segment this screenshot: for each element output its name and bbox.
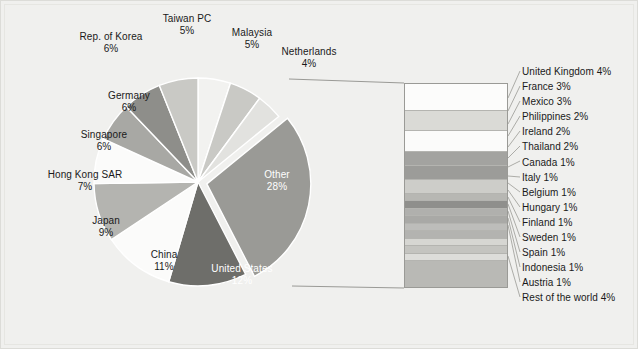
pie-label-name: China bbox=[151, 249, 178, 260]
pie-label-other: Other 28% bbox=[247, 169, 307, 192]
bar-segment-hungary[interactable] bbox=[405, 216, 507, 223]
leader-line-spain bbox=[508, 211, 520, 252]
leader-line-rest-of-the-world bbox=[508, 256, 520, 297]
bar-segment-spain[interactable] bbox=[405, 239, 507, 246]
pie-label-pct: 6% bbox=[89, 102, 169, 114]
breakout-stacked-bar bbox=[404, 83, 508, 288]
pie-label-japan: Japan 9% bbox=[69, 215, 143, 238]
pie-label-rep-of-korea: Rep. of Korea 6% bbox=[61, 31, 161, 54]
bar-segment-belgium[interactable] bbox=[405, 209, 507, 216]
leader-line-hungary bbox=[508, 190, 520, 207]
legend-item-belgium[interactable]: Belgium 1% bbox=[522, 185, 637, 200]
pie-label-pct: 11% bbox=[129, 261, 199, 273]
pie-label-pct: 28% bbox=[247, 181, 307, 193]
bar-segment-philippines[interactable] bbox=[405, 152, 507, 166]
legend-item-hungary[interactable]: Hungary 1% bbox=[522, 200, 637, 215]
pie-label-name: Rep. of Korea bbox=[79, 31, 142, 42]
legend-item-canada[interactable]: Canada 1% bbox=[522, 155, 637, 170]
bar-segment-sweden[interactable] bbox=[405, 231, 507, 238]
leader-line-austria bbox=[508, 225, 520, 282]
legend-item-thailand[interactable]: Thailand 2% bbox=[522, 139, 637, 154]
pie-label-name: Germany bbox=[108, 90, 150, 101]
pie-label-pct: 9% bbox=[69, 227, 143, 239]
legend-item-austria[interactable]: Austria 1% bbox=[522, 275, 637, 290]
legend-item-ireland[interactable]: Ireland 2% bbox=[522, 124, 637, 139]
legend-item-united-kingdom[interactable]: United Kingdom 4% bbox=[522, 64, 637, 79]
leader-line-canada bbox=[508, 161, 520, 167]
pie-label-name: Japan bbox=[92, 215, 120, 226]
leader-line-philippines bbox=[508, 116, 520, 136]
pie-label-pct: 6% bbox=[61, 43, 161, 55]
bar-segment-austria[interactable] bbox=[405, 254, 507, 261]
bar-segment-finland[interactable] bbox=[405, 224, 507, 231]
pie-label-pct: 6% bbox=[62, 141, 146, 153]
legend-item-spain[interactable]: Spain 1% bbox=[522, 245, 637, 260]
leader-line-mexico bbox=[508, 101, 520, 124]
pie-label-pct: 4% bbox=[266, 58, 352, 70]
pie-label-hong-kong-sar: Hong Kong SAR 7% bbox=[30, 169, 140, 192]
bar-segment-rest-of-the-world[interactable] bbox=[405, 261, 507, 287]
pie-label-pct: 7% bbox=[30, 181, 140, 193]
bar-segment-united-kingdom[interactable] bbox=[405, 84, 507, 111]
leader-line-belgium bbox=[508, 183, 520, 192]
pie-label-name: Taiwan PC bbox=[163, 13, 212, 24]
pie-label-name: United States bbox=[211, 263, 272, 274]
pie-chart-figure: Rep. of Korea 6% Taiwan PC 5% Malaysia 5… bbox=[0, 0, 638, 349]
pie-label-netherlands: Netherlands 4% bbox=[266, 46, 352, 69]
pie-label-pct: 12% bbox=[192, 275, 292, 287]
breakout-legend: United Kingdom 4% France 3% Mexico 3% Ph… bbox=[522, 64, 637, 306]
legend-item-sweden[interactable]: Sweden 1% bbox=[522, 230, 637, 245]
leader-line-italy bbox=[508, 176, 520, 177]
leader-line-indonesia bbox=[508, 218, 520, 267]
pie-label-germany: Germany 6% bbox=[89, 90, 169, 113]
pie-label-united-states: United States 12% bbox=[192, 263, 292, 286]
pie-label-name: Malaysia bbox=[232, 27, 272, 38]
bar-segment-thailand[interactable] bbox=[405, 180, 507, 194]
leader-line-ireland bbox=[508, 131, 520, 147]
leader-line-finland bbox=[508, 197, 520, 222]
leader-line-united-kingdom bbox=[508, 71, 520, 98]
pie-label-china: China 11% bbox=[129, 249, 199, 272]
bar-segment-ireland[interactable] bbox=[405, 166, 507, 180]
bar-segment-italy[interactable] bbox=[405, 201, 507, 208]
legend-item-philippines[interactable]: Philippines 2% bbox=[522, 109, 637, 124]
bar-segment-france[interactable] bbox=[405, 111, 507, 131]
pie-label-name: Netherlands bbox=[281, 46, 336, 57]
leader-line-thailand bbox=[508, 146, 520, 158]
pie-label-name: Other bbox=[264, 169, 290, 180]
bar-segment-mexico[interactable] bbox=[405, 131, 507, 151]
leader-line-france bbox=[508, 86, 520, 111]
legend-item-mexico[interactable]: Mexico 3% bbox=[522, 94, 637, 109]
legend-item-finland[interactable]: Finland 1% bbox=[522, 215, 637, 230]
pie-label-name: Singapore bbox=[81, 129, 128, 140]
legend-item-italy[interactable]: Italy 1% bbox=[522, 170, 637, 185]
pie-label-name: Hong Kong SAR bbox=[48, 169, 123, 180]
bar-segment-indonesia[interactable] bbox=[405, 246, 507, 253]
legend-item-rest-of-the-world[interactable]: Rest of the world 4% bbox=[522, 290, 637, 305]
bar-segment-canada[interactable] bbox=[405, 194, 507, 201]
legend-item-indonesia[interactable]: Indonesia 1% bbox=[522, 260, 637, 275]
leader-line-sweden bbox=[508, 204, 520, 237]
pie-label-singapore: Singapore 6% bbox=[62, 129, 146, 152]
legend-item-france[interactable]: France 3% bbox=[522, 79, 637, 94]
